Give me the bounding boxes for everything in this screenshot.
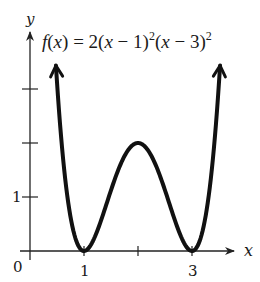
x-axis-label: x: [244, 241, 253, 260]
x-tick-label-1: 1: [80, 262, 90, 280]
y-tick-label-1: 1: [12, 188, 22, 206]
y-axis-label: y: [25, 10, 35, 28]
x-tick-label-3: 3: [188, 262, 198, 280]
function-plot: y x 0 1 3 1 f(x) = 2(x − 1)2(x − 3)2: [0, 0, 260, 282]
function-curve: [56, 66, 220, 251]
curve-end-arrows: [51, 66, 226, 77]
origin-label: 0: [13, 258, 23, 276]
function-label: f(x) = 2(x − 1)2(x − 3)2: [42, 29, 212, 53]
